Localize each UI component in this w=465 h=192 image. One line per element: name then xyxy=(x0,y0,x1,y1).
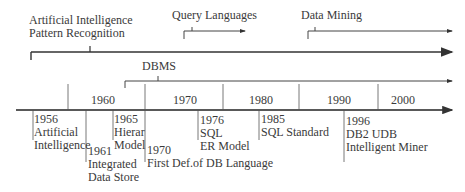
event-text: Data Store xyxy=(88,171,139,184)
event-text: First Def.of DB Language xyxy=(147,157,273,170)
decade-label-1970: 1970 xyxy=(173,94,197,107)
decade-label-1980: 1980 xyxy=(249,94,273,107)
event-text: ER Model xyxy=(200,140,250,153)
dbms-label: DBMS xyxy=(142,60,176,73)
decade-label-1990: 1990 xyxy=(327,94,351,107)
data-mining-label: Data Mining xyxy=(301,9,362,22)
decade-label-1960: 1960 xyxy=(91,94,115,107)
query-languages-track xyxy=(184,27,245,39)
main-time-axis xyxy=(16,84,452,110)
ai-track-label-line2: Pattern Recognition xyxy=(29,27,125,40)
dbms-track xyxy=(125,76,452,88)
query-languages-label: Query Languages xyxy=(172,9,257,22)
ai-track xyxy=(31,46,452,60)
event-text: Intelligence xyxy=(34,139,91,152)
decade-label-2000: 2000 xyxy=(391,94,415,107)
event-text: SQL Standard xyxy=(261,126,329,139)
event-text: Model xyxy=(114,139,145,152)
data-mining-track xyxy=(308,27,452,39)
event-text: Intelligent Miner xyxy=(346,141,428,154)
